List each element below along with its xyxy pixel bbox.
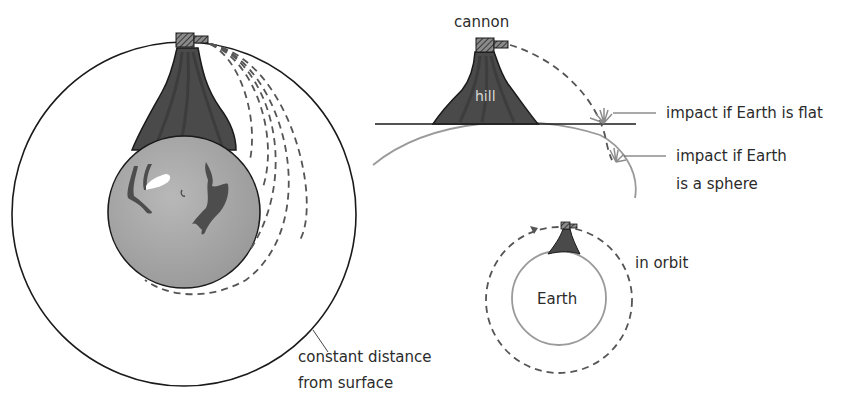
- label-hill: hill: [475, 88, 496, 104]
- top-right-panel: hill cannon impact if Earth is flat impa…: [373, 13, 823, 198]
- cannon-body-top: [476, 38, 494, 52]
- label-impact-flat: impact if Earth is flat: [666, 104, 823, 122]
- label-constant-distance-2: from surface: [298, 374, 393, 392]
- cannon-body: [176, 33, 194, 47]
- label-earth: Earth: [537, 290, 577, 308]
- label-impact-sphere-1: impact if Earth: [676, 147, 787, 165]
- impact-burst-flat: [590, 108, 612, 123]
- label-cannon: cannon: [454, 13, 509, 31]
- left-panel: constant distance from surface: [12, 33, 432, 392]
- mini-cannon-body: [561, 222, 570, 229]
- sphere-surface-curve: [373, 122, 636, 198]
- earth-globe: [108, 136, 260, 288]
- label-in-orbit: in orbit: [635, 254, 688, 272]
- impact-burst-sphere: [610, 148, 626, 162]
- cannon-barrel-top: [494, 41, 508, 48]
- newton-cannon-diagram: constant distance from surface hill cann…: [0, 0, 862, 408]
- label-impact-sphere-2: is a sphere: [676, 175, 758, 193]
- mini-cannon-barrel: [570, 224, 577, 228]
- mini-mountain: [548, 229, 580, 254]
- label-constant-distance-1: constant distance: [298, 348, 432, 366]
- cannon-trajectory: [510, 45, 612, 160]
- cannon-barrel: [194, 36, 208, 43]
- bottom-right-panel: Earth in orbit: [486, 222, 688, 373]
